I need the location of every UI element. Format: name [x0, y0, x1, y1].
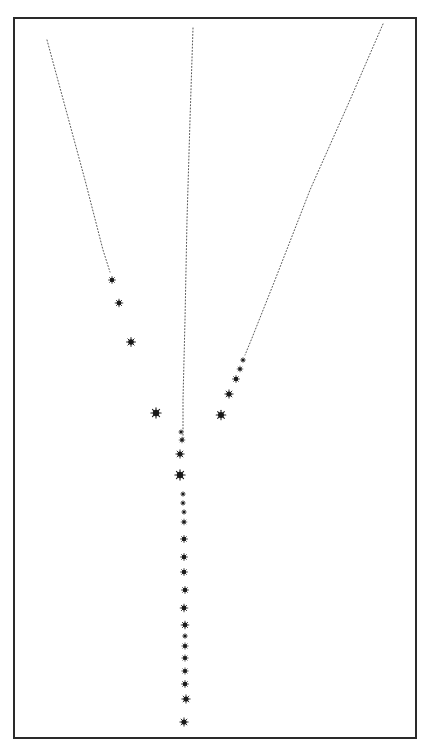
blob-stem: [180, 535, 187, 542]
blob-left-branch: [127, 338, 136, 347]
blob-stem: [180, 718, 188, 726]
left-track: [47, 40, 110, 272]
blob-right-branch: [240, 357, 245, 362]
blob-stem: [181, 492, 186, 497]
blob-left-branch: [108, 276, 115, 283]
right-track: [245, 24, 383, 355]
blob-stem: [181, 680, 188, 687]
blob-stem: [181, 501, 186, 506]
blob-stem: [179, 437, 185, 443]
blob-stem: [182, 510, 187, 515]
blob-stem: [182, 668, 188, 674]
blob-right-branch: [225, 390, 233, 398]
blob-stem: [180, 553, 187, 560]
blob-stem: [181, 621, 189, 629]
blob-right-branch: [216, 410, 226, 420]
blob-stem: [182, 695, 190, 703]
blob-stem: [182, 655, 188, 661]
blob-stem: [179, 430, 183, 434]
blob-stem: [180, 604, 188, 612]
blob-stem: [175, 470, 185, 480]
blob-stem: [181, 586, 188, 593]
blob-stem: [181, 519, 187, 525]
blob-left-branch: [115, 299, 123, 307]
particle-tracks-canvas: [0, 0, 425, 748]
blob-right-branch: [237, 366, 243, 372]
blob-stem: [182, 643, 188, 649]
blob-stem: [182, 633, 187, 638]
blob-right-branch: [232, 375, 239, 382]
track-layer: [47, 24, 383, 440]
center-track: [183, 28, 193, 440]
blob-stem: [176, 450, 184, 458]
blob-layer: [108, 276, 245, 726]
blob-stem: [180, 568, 187, 575]
blob-left-branch: [151, 408, 161, 418]
